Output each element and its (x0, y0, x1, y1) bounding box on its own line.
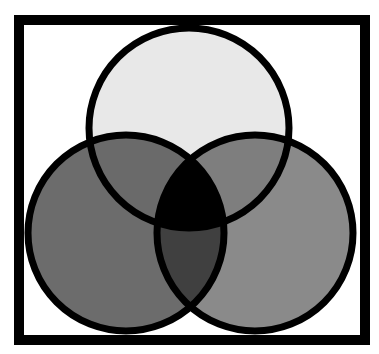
venn-diagram (0, 0, 379, 354)
venn-diagram-canvas (0, 0, 379, 354)
